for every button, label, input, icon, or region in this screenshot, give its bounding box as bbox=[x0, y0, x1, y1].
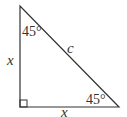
bottom-leg-label: x bbox=[60, 104, 68, 117]
left-leg-label: x bbox=[6, 52, 14, 68]
right-angle-marker bbox=[20, 100, 27, 107]
hypotenuse-label: c bbox=[67, 40, 74, 56]
top-angle-label: 45° bbox=[22, 24, 42, 39]
right-triangle-diagram: 45° c x x 45° bbox=[0, 0, 127, 117]
bottom-right-angle-label: 45° bbox=[86, 92, 106, 107]
